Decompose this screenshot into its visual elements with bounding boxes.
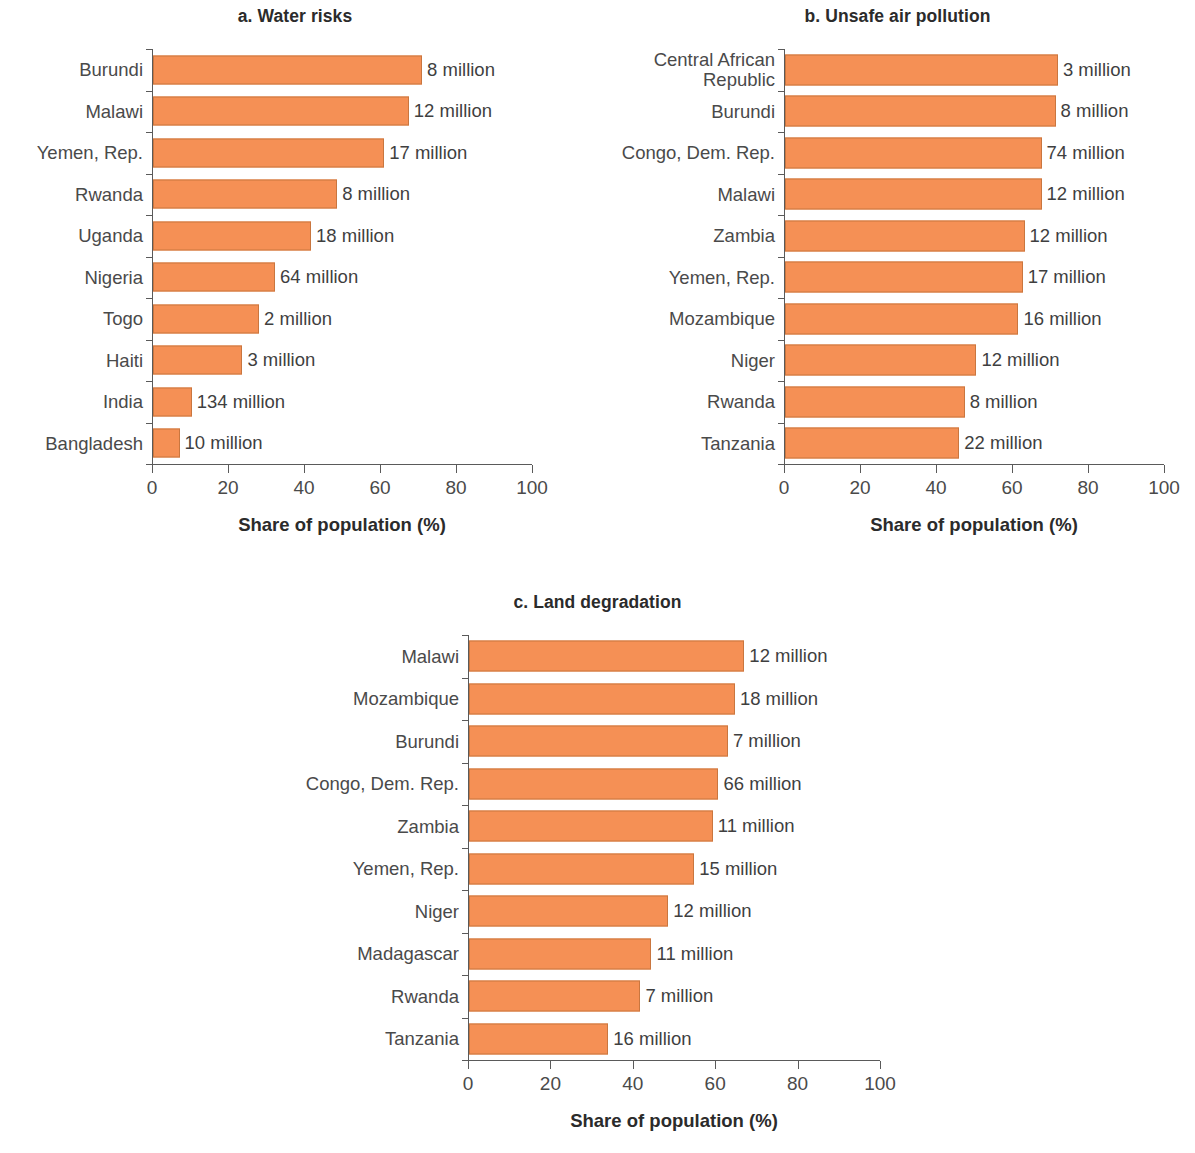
x-axis-tick (152, 465, 153, 473)
bar-row: 22 million (785, 423, 1164, 465)
category-tick (146, 423, 153, 424)
x-axis-tick (860, 465, 861, 473)
bar (153, 263, 275, 292)
bar (785, 303, 1018, 334)
x-axis-tick-label: 60 (705, 1073, 726, 1095)
panel-b-axis-block: 020406080100 Share of population (%) (600, 464, 1195, 538)
category-label: Zambia (60, 805, 468, 848)
x-axis-tick (936, 465, 937, 473)
category-label: Malawi (0, 91, 152, 133)
bar-row: 11 million (469, 933, 880, 976)
x-axis-tick-label: 80 (445, 477, 466, 499)
x-axis-tick-label: 0 (463, 1073, 474, 1095)
category-tick (462, 975, 469, 976)
bar-row: 17 million (153, 132, 532, 174)
category-label: Tanzania (600, 423, 784, 465)
bar-value-label: 12 million (976, 349, 1059, 371)
panel-c-title: c. Land degradation (0, 592, 1195, 613)
bar-value-label: 15 million (694, 858, 777, 880)
bar-value-label: 8 million (422, 59, 495, 81)
bar-value-label: 12 million (668, 900, 751, 922)
category-label: Yemen, Rep. (0, 132, 152, 174)
panel-c-bars: 12 million18 million7 million66 million1… (468, 635, 880, 1060)
bar-value-label: 3 million (242, 349, 315, 371)
category-tick (778, 49, 785, 50)
category-label: Congo, Dem. Rep. (600, 132, 784, 174)
bar-value-label: 11 million (651, 943, 733, 965)
category-label: Nigeria (0, 257, 152, 299)
bar-value-label: 2 million (259, 308, 332, 330)
bar (785, 262, 1023, 293)
panel-c-axis-block: 020406080100 Share of population (%) (0, 1060, 1195, 1134)
category-label: India (0, 381, 152, 423)
x-axis-tick-label: 80 (1077, 477, 1098, 499)
panel-unsafe-air-pollution: b. Unsafe air pollution Central African … (600, 0, 1195, 538)
bar-value-label: 12 million (744, 645, 827, 667)
x-axis-tick-label: 100 (516, 477, 548, 499)
category-label: Yemen, Rep. (60, 848, 468, 891)
bar-row: 8 million (153, 49, 532, 91)
category-tick (778, 381, 785, 382)
x-axis-tick (550, 1061, 551, 1069)
category-label: Malawi (600, 174, 784, 216)
category-label: Madagascar (60, 933, 468, 976)
x-axis-tick (1012, 465, 1013, 473)
bar-row: 18 million (469, 678, 880, 721)
bar (469, 853, 694, 884)
bar-row: 12 million (785, 215, 1164, 257)
bar-row: 12 million (153, 91, 532, 133)
x-axis-tick-label: 40 (293, 477, 314, 499)
bar (469, 981, 640, 1012)
bar (785, 220, 1025, 251)
category-label: Burundi (0, 49, 152, 91)
category-label: Rwanda (60, 975, 468, 1018)
bar-value-label: 10 million (180, 432, 263, 454)
panel-c-plot: MalawiMozambiqueBurundiCongo, Dem. Rep.Z… (60, 635, 1195, 1060)
bar-value-label: 74 million (1042, 142, 1125, 164)
bar-row: 16 million (469, 1018, 880, 1061)
bar (153, 97, 409, 126)
category-label: Niger (600, 340, 784, 382)
bar-row: 12 million (785, 174, 1164, 216)
bar-value-label: 134 million (192, 391, 285, 413)
bar-value-label: 18 million (735, 688, 818, 710)
category-tick (462, 805, 469, 806)
bar-row: 74 million (785, 132, 1164, 174)
x-axis-tick-label: 0 (779, 477, 790, 499)
x-axis-tick-label: 40 (622, 1073, 643, 1095)
bar-value-label: 64 million (275, 266, 358, 288)
x-axis-tick (633, 1061, 634, 1069)
bar (153, 429, 180, 458)
category-tick (462, 635, 469, 636)
panel-a-bars: 8 million12 million17 million8 million18… (152, 49, 532, 464)
bar (153, 304, 259, 333)
bar (469, 896, 668, 927)
panel-a-category-labels: BurundiMalawiYemen, Rep.RwandaUgandaNige… (0, 49, 152, 464)
bar-value-label: 17 million (1023, 266, 1106, 288)
panel-c-x-axis-title: Share of population (%) (468, 1110, 880, 1132)
bar (153, 138, 384, 167)
bar-row: 17 million (785, 257, 1164, 299)
category-label: Rwanda (600, 381, 784, 423)
category-tick (146, 132, 153, 133)
panel-c-x-axis: 020406080100 (468, 1060, 880, 1061)
category-label: Bangladesh (0, 423, 152, 465)
bar (469, 683, 735, 714)
bar-row: 2 million (153, 298, 532, 340)
bar (785, 345, 976, 376)
panel-b-bars: 3 million8 million74 million12 million12… (784, 49, 1164, 464)
x-axis-tick (456, 465, 457, 473)
category-tick (462, 678, 469, 679)
bar-value-label: 18 million (311, 225, 394, 247)
category-label: Zambia (600, 215, 784, 257)
category-tick (146, 49, 153, 50)
bar (153, 55, 422, 84)
category-label: Burundi (600, 91, 784, 133)
category-tick (146, 91, 153, 92)
category-label: Central African Republic (600, 49, 784, 91)
panel-b-x-axis-title: Share of population (%) (784, 514, 1164, 536)
category-label: Congo, Dem. Rep. (60, 763, 468, 806)
bar (469, 938, 651, 969)
category-tick (146, 257, 153, 258)
category-tick (146, 215, 153, 216)
